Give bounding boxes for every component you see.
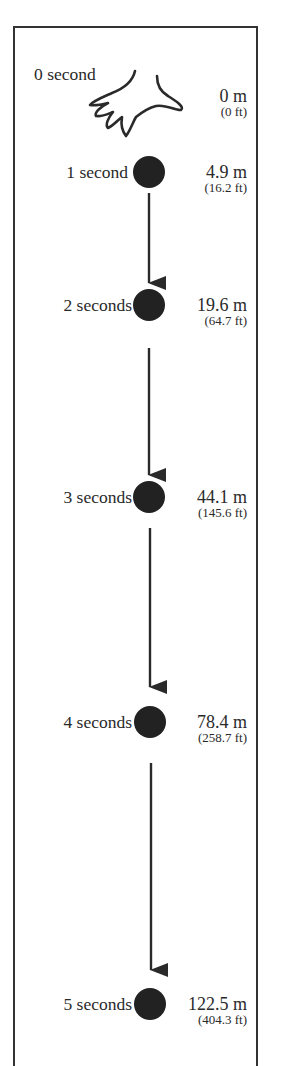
distance-5s: 122.5 m (404.3 ft) <box>188 995 247 1027</box>
distance-m: 44.1 m <box>197 488 247 506</box>
distance-ft: (64.7 ft) <box>197 314 247 328</box>
ball-4s <box>134 706 166 738</box>
distance-m: 78.4 m <box>197 713 247 731</box>
distance-2s: 19.6 m (64.7 ft) <box>197 296 247 328</box>
distance-m: 19.6 m <box>197 296 247 314</box>
ball-2s <box>133 289 165 321</box>
ball-3s <box>133 481 165 513</box>
time-label-4s: 4 seconds <box>63 712 132 732</box>
ball-1s <box>133 156 165 188</box>
distance-3s: 44.1 m (145.6 ft) <box>197 488 247 520</box>
time-label-1s: 1 second <box>66 162 128 182</box>
distance-1s: 4.9 m (16.2 ft) <box>204 163 247 195</box>
hand-icon <box>90 71 182 136</box>
distance-m: 0 m <box>219 87 247 105</box>
distance-ft: (16.2 ft) <box>204 181 247 195</box>
distance-m: 4.9 m <box>204 163 247 181</box>
distance-4s: 78.4 m (258.7 ft) <box>197 713 247 745</box>
distance-ft: (404.3 ft) <box>188 1013 247 1027</box>
distance-ft: (258.7 ft) <box>197 731 247 745</box>
time-label-0s: 0 second <box>34 64 96 84</box>
distance-ft: (0 ft) <box>219 105 247 119</box>
time-label-5s: 5 seconds <box>63 994 132 1014</box>
distance-m: 122.5 m <box>188 995 247 1013</box>
distance-0s: 0 m (0 ft) <box>219 87 247 119</box>
time-label-2s: 2 seconds <box>63 295 132 315</box>
distance-ft: (145.6 ft) <box>197 506 247 520</box>
ball-5s <box>134 988 166 1020</box>
time-label-3s: 3 seconds <box>63 487 132 507</box>
